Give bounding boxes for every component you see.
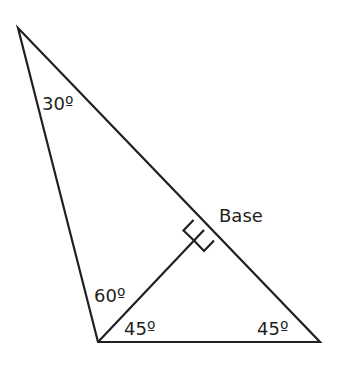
triangle-diagram: 30º 60º 45º 45º Base bbox=[0, 0, 338, 369]
angle-label-left-lower: 45º bbox=[124, 318, 155, 339]
right-angle-marker-left bbox=[184, 220, 195, 241]
angle-label-right: 45º bbox=[257, 318, 288, 339]
angle-label-left-upper: 60º bbox=[94, 285, 125, 306]
right-angle-marker-right bbox=[194, 241, 214, 252]
outer-triangle bbox=[18, 28, 320, 342]
angle-label-top: 30º bbox=[42, 93, 73, 114]
base-label: Base bbox=[219, 205, 263, 226]
